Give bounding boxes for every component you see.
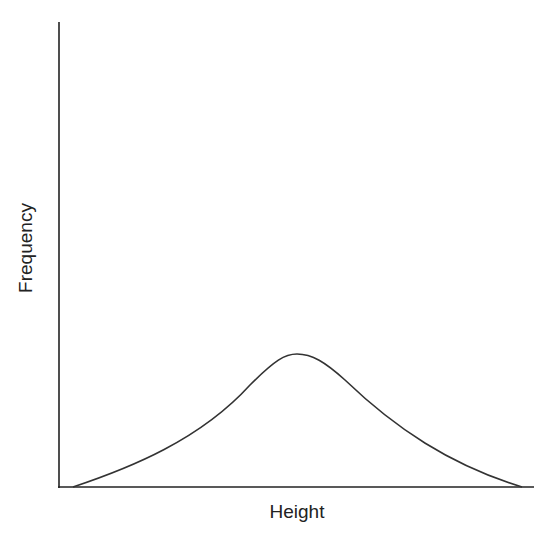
x-axis-label: Height <box>270 501 325 523</box>
y-axis-label: Frequency <box>15 203 37 293</box>
chart-canvas <box>0 0 559 545</box>
distribution-curve <box>73 354 522 487</box>
